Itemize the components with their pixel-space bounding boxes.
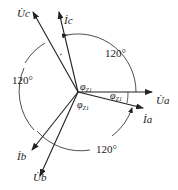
- phasor-labels: U̇c İc U̇a İa İb U̇b: [16, 7, 170, 183]
- phasor-diagram: U̇c İc U̇a İa İb U̇b 120° 120° 120° φZ1 …: [0, 0, 178, 190]
- label-ic: İc: [63, 14, 73, 26]
- label-ub: U̇b: [33, 171, 47, 183]
- phasor-ib: [32, 92, 78, 150]
- phi-label-bottom: φZ1: [77, 99, 89, 111]
- arc-cb-top: [25, 43, 45, 63]
- arc-ca: [67, 34, 136, 92]
- angle-label-left: 120°: [12, 74, 33, 86]
- label-uc: U̇c: [17, 7, 30, 19]
- phasors: [32, 12, 152, 176]
- phi-labels: φZ1 φZ1 φZ1: [77, 81, 122, 111]
- angle-label-bottom: 120°: [96, 143, 117, 155]
- angle-label-top: 120°: [105, 47, 126, 59]
- label-ua: U̇a: [156, 94, 170, 106]
- angle-labels: 120° 120° 120°: [12, 47, 126, 155]
- label-ib: İb: [16, 150, 27, 162]
- phasor-diagram-svg: U̇c İc U̇a İa İb U̇b 120° 120° 120° φZ1 …: [0, 0, 178, 190]
- label-ia: İa: [142, 113, 153, 125]
- phasor-ub: [40, 92, 78, 176]
- arc-ba-right: [112, 108, 132, 136]
- phi-label-top: φZ1: [80, 81, 92, 93]
